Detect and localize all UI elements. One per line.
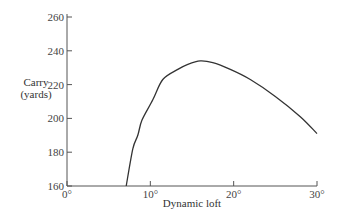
y-tick-label: 240	[48, 45, 65, 57]
y-axis-title-line-1: Carry	[23, 76, 49, 88]
x-tick-label: 30°	[309, 188, 324, 200]
y-tick-label: 260	[48, 11, 65, 23]
y-axis-title-line-2: (yards)	[20, 88, 51, 101]
y-tick-label: 180	[48, 146, 65, 158]
x-tick-label: 0°	[62, 188, 72, 200]
y-axis: 160180200220240260	[48, 11, 73, 192]
x-tick-label: 10°	[143, 188, 158, 200]
carry-vs-loft-chart: 160180200220240260 0°10°20°30° Carry (ya…	[0, 0, 341, 220]
x-axis-title: Dynamic loft	[163, 197, 221, 209]
x-tick-label: 20°	[226, 188, 241, 200]
y-tick-label: 200	[48, 112, 65, 124]
carry-curve	[126, 61, 317, 186]
